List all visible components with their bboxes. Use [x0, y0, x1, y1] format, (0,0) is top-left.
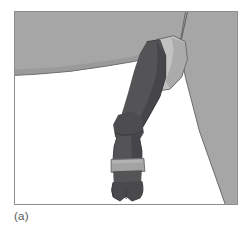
- figure-root: (a): [0, 0, 252, 231]
- figure-caption: (a): [14, 209, 29, 223]
- horse-leg-illustration: [15, 12, 237, 204]
- figure-frame: [14, 11, 238, 205]
